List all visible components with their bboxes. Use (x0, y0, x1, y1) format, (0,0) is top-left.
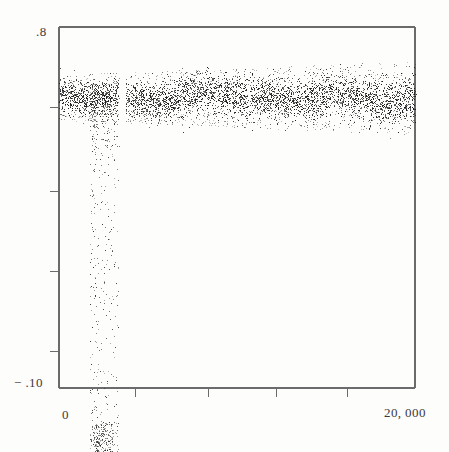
x-axis-max-label: 20, 000 (384, 405, 426, 421)
x-axis-min-label: 0 (62, 407, 69, 423)
plot-canvas (0, 0, 449, 452)
figure-background (0, 0, 449, 452)
y-axis-min-label: − .10 (14, 375, 43, 391)
scatter-plot-figure: .8 − .10 0 20, 000 (0, 0, 449, 452)
y-axis-max-label: .8 (36, 24, 47, 40)
